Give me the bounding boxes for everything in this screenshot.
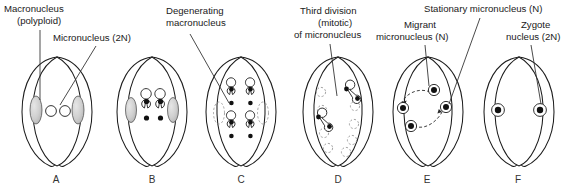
micronucleus-pole-left-bottom xyxy=(144,115,149,120)
micronucleus-right xyxy=(60,106,71,117)
degenerating-macronucleus-left xyxy=(126,98,137,123)
label-zygote-nucleus: Zygote nucleus (2N) xyxy=(506,19,560,42)
label-degenerating-macronucleus: Degenerating macronucleus xyxy=(166,5,226,28)
zygote-line2: nucleus (2N) xyxy=(506,31,560,42)
zygote-nucleus-right xyxy=(534,104,547,117)
panel-letter-b: B xyxy=(149,174,156,185)
zygote-line1: Zygote xyxy=(521,19,550,30)
zygote-nucleus-left xyxy=(492,104,505,117)
micronucleus-pole-right-top xyxy=(158,99,163,104)
macronucleus-left xyxy=(30,96,42,124)
panel-c: C xyxy=(206,57,276,185)
panel-d: D xyxy=(303,57,373,185)
micronucleus-pole-right-bottom xyxy=(158,115,163,120)
panel-letter-f: F xyxy=(515,174,521,185)
migrant-micronucleus-lower-left xyxy=(405,120,416,131)
stationary-line1: Stationary micronucleus (N) xyxy=(424,3,542,14)
panel-letter-a: A xyxy=(53,174,60,185)
panel-letter-d: D xyxy=(334,174,341,185)
degenerating-macronucleus-right xyxy=(168,98,179,123)
third-division-line1: Third division xyxy=(300,5,357,16)
label-micronucleus: Micronucleus (2N) xyxy=(53,32,131,43)
conjugation-figure: A B xyxy=(0,0,581,189)
panel-a: A xyxy=(22,57,92,185)
migrant-line2: micronucleus (N) xyxy=(376,31,449,42)
label-stationary-micronucleus: Stationary micronucleus (N) xyxy=(424,3,542,14)
stationary-micronucleus-left xyxy=(397,102,408,113)
micronucleus-line1: Micronucleus (2N) xyxy=(53,32,131,43)
leader-stationary-micronucleus xyxy=(449,18,480,104)
migrant-line1: Migrant xyxy=(404,19,436,30)
micronucleus-left xyxy=(46,106,57,117)
third-division-line3: of micronucleus xyxy=(294,29,361,40)
macronucleus-right xyxy=(72,96,84,124)
third-division-line2: (mitotic) xyxy=(318,17,352,28)
stationary-micronucleus-right xyxy=(440,101,451,112)
migrant-micronucleus-upper-right xyxy=(428,84,439,95)
degenerating-line1: Degenerating xyxy=(166,5,224,16)
micronucleus-pole-left-top xyxy=(144,99,149,104)
panel-letter-c: C xyxy=(237,174,244,185)
label-macronucleus: Macronucleus (polyploid) xyxy=(4,3,64,26)
panel-b: B xyxy=(117,57,187,185)
panel-letter-e: E xyxy=(424,174,431,185)
degenerating-line2: macronucleus xyxy=(166,17,226,28)
macronucleus-line2: (polyploid) xyxy=(17,15,61,26)
label-migrant-micronucleus: Migrant micronucleus (N) xyxy=(376,19,449,42)
macronucleus-line1: Macronucleus xyxy=(4,3,64,14)
panel-f: F xyxy=(484,57,554,185)
label-third-division: Third division (mitotic) of micronucleus xyxy=(294,5,361,40)
